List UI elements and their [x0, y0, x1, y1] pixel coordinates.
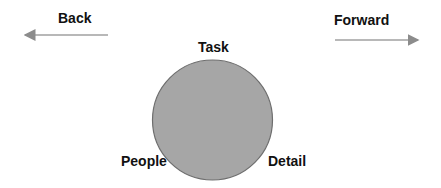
forward-label[interactable]: Forward: [334, 12, 389, 28]
task-label: Task: [198, 39, 229, 55]
back-label[interactable]: Back: [58, 10, 91, 26]
central-circle: [153, 60, 273, 180]
people-label: People: [121, 153, 167, 169]
diagram-canvas: [0, 0, 441, 188]
detail-label: Detail: [268, 153, 306, 169]
